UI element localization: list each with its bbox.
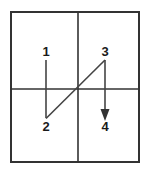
point-label-3: 3	[98, 45, 112, 58]
point-label-4: 4	[98, 120, 112, 133]
point-label-2: 2	[39, 120, 53, 133]
point-label-1: 1	[39, 45, 53, 58]
diagram-canvas: 1 2 3 4	[0, 0, 149, 170]
outer-frame-rect	[11, 12, 139, 162]
diagram-graphic	[0, 0, 149, 170]
